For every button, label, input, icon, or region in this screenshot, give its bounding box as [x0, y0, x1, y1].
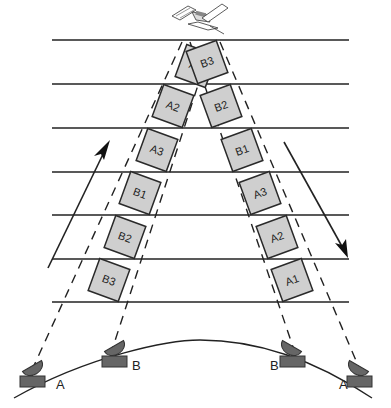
burst-box-left-a2: A2: [152, 85, 194, 128]
earth-station-b-1: B: [102, 341, 141, 374]
burst-boxes: A1A2A3B1B2B3B3B2B1A3A2A1: [88, 41, 313, 302]
station-label: A: [56, 377, 65, 392]
satellite-icon: [172, 4, 228, 34]
burst-box-left-b3: B3: [88, 259, 130, 302]
burst-box-right-a2: A2: [256, 216, 298, 259]
earth-stations: ABBA: [20, 341, 372, 393]
diagram-canvas: A1A2A3B1B2B3B3B2B1A3A2A1 ABBA: [0, 0, 391, 408]
station-base: [20, 376, 45, 387]
station-label: A: [339, 377, 348, 392]
burst-box-right-a1: A1: [271, 259, 313, 302]
earth-station-a-0: A: [20, 361, 65, 393]
beam-dashed-lines: [32, 42, 360, 370]
station-base: [347, 376, 372, 387]
uplink-arrow: [48, 148, 106, 268]
beam-dashed-line: [220, 42, 360, 370]
burst-box-right-b1: B1: [221, 129, 263, 172]
downlink-arrow-head: [335, 239, 348, 258]
earth-station-a-3: A: [339, 361, 372, 393]
direction-arrows: [48, 140, 348, 268]
station-base: [280, 356, 305, 367]
station-base: [102, 356, 127, 367]
station-label: B: [132, 358, 141, 373]
burst-box-left-b1: B1: [119, 172, 161, 215]
earth-station-b-2: B: [270, 341, 305, 374]
burst-box-left-b2: B2: [104, 216, 146, 259]
burst-box-right-a3: A3: [239, 172, 281, 215]
station-label: B: [270, 358, 279, 373]
earth-surface: [14, 340, 372, 398]
beam-dashed-line: [32, 42, 182, 370]
satellite-tdma-diagram: A1A2A3B1B2B3B3B2B1A3A2A1 ABBA: [0, 0, 391, 408]
